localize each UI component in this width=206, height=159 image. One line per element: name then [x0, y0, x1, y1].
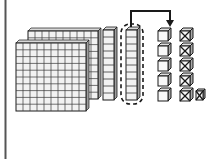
- unit-cube-plain: [158, 88, 171, 101]
- diagram-canvas: [0, 0, 206, 159]
- unit-cube-crossed: [196, 89, 205, 100]
- unit-cube-crossed: [180, 28, 193, 41]
- tens-rod-2: [126, 27, 140, 100]
- tens-rod-1: [103, 27, 117, 100]
- unit-cube-crossed: [180, 88, 193, 101]
- unit-cube-plain: [158, 43, 171, 56]
- unit-cube-crossed: [180, 58, 193, 71]
- unit-cube-plain: [158, 58, 171, 71]
- unit-cube-plain: [158, 73, 171, 86]
- unit-cube-plain: [158, 28, 171, 41]
- unit-cube-crossed: [180, 73, 193, 86]
- base-ten-blocks-diagram: Base-ten blocks regrouping: one ten rod …: [0, 0, 206, 159]
- unit-cube-crossed: [180, 43, 193, 56]
- hundreds-flat-front: [16, 40, 89, 111]
